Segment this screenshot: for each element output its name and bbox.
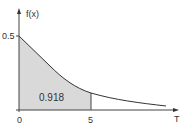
y-axis-label: f(x) xyxy=(26,10,39,19)
density-plot xyxy=(0,0,184,134)
x-tick-label-0: 0 xyxy=(17,116,22,125)
area-label: 0.918 xyxy=(39,93,64,103)
y-axis-arrow-icon xyxy=(17,8,21,14)
x-tick-label-5: 5 xyxy=(88,116,93,125)
x-axis-arrow-icon xyxy=(173,108,179,112)
y-tick-label: 0.5 xyxy=(2,32,15,41)
x-axis-label: T xyxy=(174,115,180,124)
